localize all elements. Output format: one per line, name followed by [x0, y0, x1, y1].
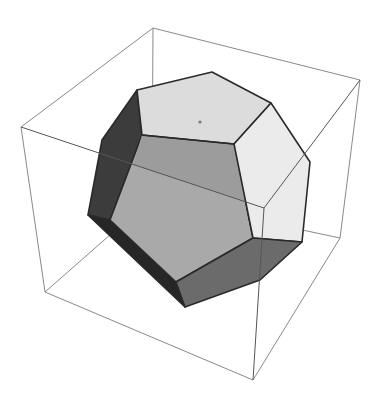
center-dot-marker	[198, 120, 201, 123]
box-edge	[340, 80, 360, 238]
figure-canvas	[0, 0, 381, 403]
box-edge	[153, 28, 360, 80]
box-edge	[21, 127, 45, 292]
dodecahedron	[88, 72, 310, 307]
box-edge	[45, 292, 253, 380]
dodecahedron-figure	[0, 0, 381, 403]
